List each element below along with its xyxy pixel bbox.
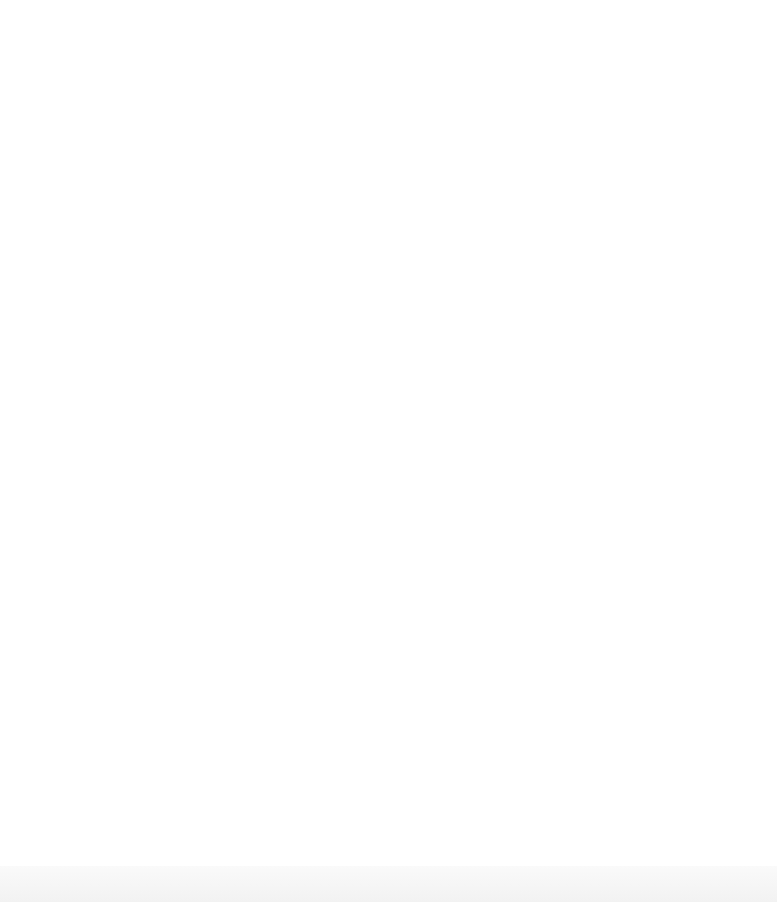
reverse-side-bleed [0,866,777,902]
plotting-sheet [0,0,777,902]
sheet-caption [735,856,747,866]
